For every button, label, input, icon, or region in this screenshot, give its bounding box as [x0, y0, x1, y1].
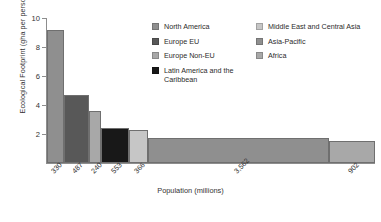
legend-label: Asia-Pacific — [268, 37, 306, 46]
legend-label: Europe Non-EU — [164, 51, 215, 60]
bar — [89, 111, 101, 163]
legend-column-left: North AmericaEurope EUEurope Non-EULatin… — [152, 22, 252, 89]
y-tick-label: 2 — [36, 130, 40, 139]
legend-label: Africa — [268, 51, 286, 60]
y-tick-mark — [42, 18, 46, 19]
legend-swatch-icon — [152, 67, 159, 74]
bar — [329, 141, 375, 163]
bar — [64, 95, 89, 163]
legend-item: Europe Non-EU — [152, 51, 252, 60]
ecological-footprint-chart: Ecological Footprint (gha per person) 24… — [0, 0, 381, 222]
legend-item: Asia-Pacific — [256, 37, 364, 46]
legend-swatch-icon — [256, 23, 263, 30]
y-tick-mark — [42, 76, 46, 77]
y-tick-label: 8 — [36, 43, 40, 52]
legend-label: Middle East and Central Asia — [268, 22, 360, 31]
x-axis-title: Population (millions) — [0, 186, 381, 195]
y-tick-label: 6 — [36, 72, 40, 81]
legend-swatch-icon — [152, 38, 159, 45]
y-tick-mark — [42, 105, 46, 106]
legend-swatch-icon — [256, 38, 263, 45]
bar — [129, 130, 148, 163]
y-tick-label: 4 — [36, 101, 40, 110]
legend-label: Europe EU — [164, 37, 199, 46]
legend-label: North America — [164, 22, 210, 31]
legend-item: North America — [152, 22, 252, 31]
legend-swatch-icon — [256, 52, 263, 59]
legend-item: Middle East and Central Asia — [256, 22, 364, 31]
bar — [47, 30, 64, 163]
legend-item: Latin America and the Caribbean — [152, 66, 252, 84]
y-tick-mark — [42, 47, 46, 48]
legend-item: Africa — [256, 51, 364, 60]
bar — [148, 138, 329, 163]
legend-label: Latin America and the Caribbean — [164, 66, 252, 84]
y-tick-label: 10 — [32, 14, 40, 23]
bar — [101, 128, 129, 163]
y-axis-title: Ecological Footprint (gha per person) — [18, 0, 27, 123]
legend-swatch-icon — [152, 23, 159, 30]
legend-item: Europe EU — [152, 37, 252, 46]
legend-column-right: Middle East and Central AsiaAsia-Pacific… — [256, 22, 364, 66]
y-tick-mark — [42, 134, 46, 135]
legend-swatch-icon — [152, 52, 159, 59]
